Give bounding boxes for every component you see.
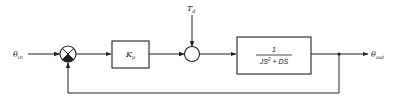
error-summing-junction — [60, 46, 76, 62]
plant-numerator: 1 — [272, 46, 276, 53]
controller-block: Kp — [112, 41, 149, 68]
plant-block: 1 JS2 + DS — [237, 37, 311, 74]
disturbance-summing-junction — [185, 47, 200, 62]
disturbance-label: Td — [187, 4, 196, 14]
block-diagram: θin Kp Td 1 JS2 + DS θout — [0, 0, 401, 102]
output-label: θout — [371, 50, 385, 60]
plant-denominator: JS2 + DS — [259, 57, 289, 65]
input-label: θin — [13, 50, 23, 60]
